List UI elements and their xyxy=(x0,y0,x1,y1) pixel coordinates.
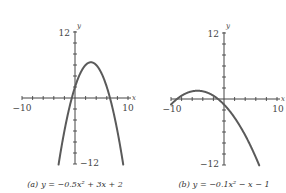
x-axis-name-a: x xyxy=(132,94,136,102)
chart-panel-b xyxy=(171,32,280,165)
chart-panel-a xyxy=(22,31,131,165)
figure: 12 y −12 −10 10 x (a)y = −0.5x² + 3x + 2… xyxy=(0,0,286,193)
parabola-curve xyxy=(59,62,124,164)
caption-b: (b)y = −0.1x² − x − 1 xyxy=(178,180,269,189)
y-min-label-a: −12 xyxy=(80,158,99,168)
parabola-curve xyxy=(171,91,259,166)
y-max-label-a: 12 xyxy=(59,28,70,38)
x-axis-name-b: x xyxy=(281,95,285,103)
y-max-label-b: 12 xyxy=(208,29,219,39)
x-max-label-a: 10 xyxy=(122,103,134,113)
y-axis-name-b: y xyxy=(225,22,231,30)
y-min-label-b: −12 xyxy=(200,159,219,169)
y-axis-name-a: y xyxy=(76,22,82,30)
x-min-label-b: −10 xyxy=(163,104,182,114)
caption-a: (a)y = −0.5x² + 3x + 2 xyxy=(27,180,123,189)
x-max-label-b: 10 xyxy=(272,104,284,114)
x-min-label-a: −10 xyxy=(13,103,32,113)
